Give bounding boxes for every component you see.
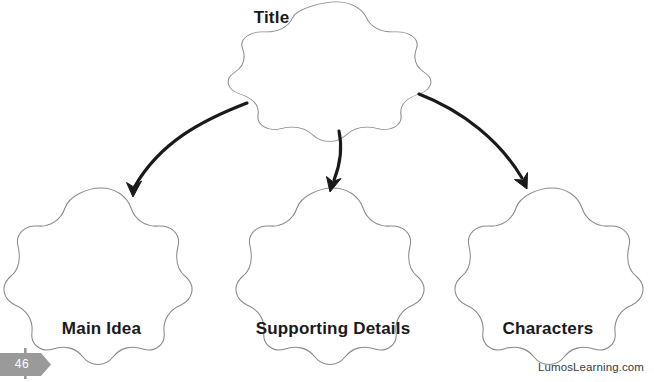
footer-brand-text: LumosLearning.com: [538, 361, 644, 373]
node-label-main-idea: Main Idea: [0, 320, 203, 337]
node-shape-supporting-details[interactable]: [236, 188, 424, 365]
worksheet-page: Title Main Idea Supporting Details Chara…: [0, 0, 654, 382]
node-shape-characters[interactable]: [455, 188, 643, 365]
connector-title-to-characters: [419, 94, 528, 189]
node-shape-main-idea[interactable]: [4, 188, 192, 365]
page-number-text: 46: [0, 351, 44, 377]
node-label-characters: Characters: [458, 320, 638, 337]
node-label-supporting-details: Supporting Details: [244, 320, 422, 337]
node-label-title: Title: [0, 9, 543, 26]
connector-title-to-main-idea: [127, 103, 248, 197]
page-number-badge: 46: [0, 351, 52, 377]
